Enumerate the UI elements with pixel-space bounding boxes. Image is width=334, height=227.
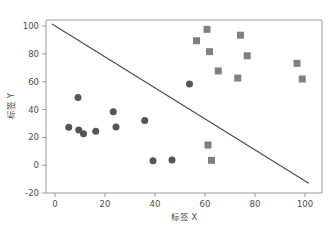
data-point-square (215, 67, 222, 74)
data-point-square (294, 60, 301, 67)
data-point-square (299, 76, 306, 83)
data-point-circle (110, 108, 117, 115)
data-point-square (237, 32, 244, 39)
y-tick-label-minus20: -20 (25, 188, 39, 198)
plot-canvas: 100 80 60 40 20 0 -20 0 20 40 60 (0, 0, 334, 227)
data-point-square (208, 157, 215, 164)
x-axis-title: 标签 X (171, 212, 198, 222)
data-point-square (193, 37, 200, 44)
x-tick-label-60: 60 (200, 199, 211, 209)
scatter-plot-figure: 100 80 60 40 20 0 -20 0 20 40 60 (0, 0, 334, 227)
x-tick-label-0: 0 (52, 199, 57, 209)
data-point-circle (186, 80, 193, 87)
x-tick-label-80: 80 (250, 199, 261, 209)
y-tick-label-80: 80 (28, 49, 39, 59)
data-point-circle (75, 94, 82, 101)
data-point-circle (141, 117, 148, 124)
data-point-square (205, 142, 212, 149)
data-point-square (206, 48, 213, 55)
data-point-square (234, 75, 241, 82)
data-point-circle (150, 157, 157, 164)
data-point-circle (80, 130, 87, 137)
x-tick-label-100: 100 (297, 199, 313, 209)
data-point-circle (169, 156, 176, 163)
x-tick-label-20: 20 (100, 199, 111, 209)
data-point-circle (113, 123, 120, 130)
x-tick-label-40: 40 (150, 199, 161, 209)
y-tick-label-100: 100 (23, 21, 39, 31)
y-tick-label-40: 40 (28, 105, 39, 115)
data-point-circle (65, 124, 72, 131)
y-axis-title: 标签 Y (6, 92, 16, 119)
data-point-square (204, 26, 211, 33)
y-tick-label-0: 0 (34, 160, 39, 170)
data-point-circle (92, 128, 99, 135)
data-point-square (244, 52, 251, 59)
y-tick-label-20: 20 (28, 132, 39, 142)
y-tick-label-60: 60 (28, 77, 39, 87)
